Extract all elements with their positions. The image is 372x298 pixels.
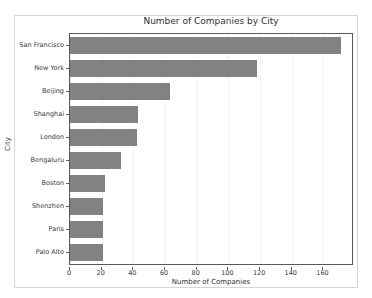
ytick-label-beijing: Beijing [0, 87, 64, 95]
ytick-mark-4 [66, 137, 69, 138]
xtick-label-40: 40 [128, 269, 136, 277]
chart-figure: Number of Companies by City San Francisc… [0, 0, 372, 298]
xtick-label-100: 100 [221, 269, 233, 277]
xtick-label-0: 0 [67, 269, 71, 277]
x-axis-label: Number of Companies [69, 278, 353, 286]
ytick-label-new-york: New York [0, 64, 64, 72]
y-axis-tick-labels: San FranciscoNew YorkBeijingShanghaiLond… [0, 33, 372, 265]
ytick-mark-8 [66, 229, 69, 230]
ytick-mark-5 [66, 160, 69, 161]
ytick-mark-1 [66, 68, 69, 69]
ytick-mark-3 [66, 114, 69, 115]
ytick-label-palo-alto: Palo Alto [0, 248, 64, 256]
xtick-label-120: 120 [253, 269, 265, 277]
ytick-label-san-francisco: San Francisco [0, 41, 64, 49]
ytick-mark-0 [66, 45, 69, 46]
xtick-label-60: 60 [160, 269, 168, 277]
ytick-mark-6 [66, 183, 69, 184]
xtick-label-140: 140 [285, 269, 297, 277]
ytick-label-boston: Boston [0, 179, 64, 187]
ytick-label-shenzhen: Shenzhen [0, 202, 64, 210]
xtick-label-80: 80 [192, 269, 200, 277]
ytick-mark-9 [66, 252, 69, 253]
ytick-label-paris: Paris [0, 225, 64, 233]
y-axis-label: City [4, 124, 12, 164]
ytick-mark-2 [66, 91, 69, 92]
chart-title: Number of Companies by City [69, 16, 353, 26]
ytick-label-shanghai: Shanghai [0, 110, 64, 118]
xtick-label-20: 20 [97, 269, 105, 277]
ytick-mark-7 [66, 206, 69, 207]
xtick-label-160: 160 [316, 269, 328, 277]
